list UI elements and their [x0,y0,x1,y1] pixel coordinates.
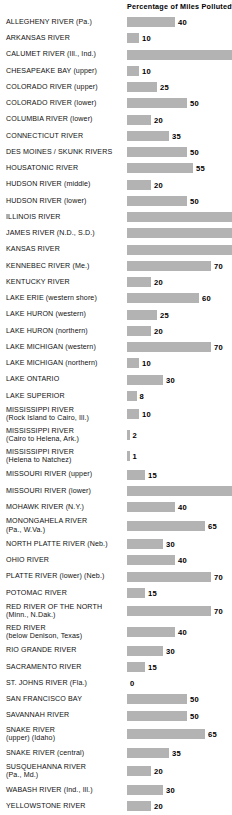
row-bar-zone [125,209,232,225]
chart-row: ILLINOIS RIVER [0,209,232,225]
row-label: MISSOURI RIVER (upper) [0,470,125,478]
row-bar-zone: 30 [125,643,232,659]
row-bar-zone: 15 [125,659,232,675]
bar [127,729,205,739]
bar-value-label: 20 [154,278,163,287]
bar-value-label: 10 [142,66,151,75]
row-bar-zone [125,483,232,499]
row-label: LAKE HURON (western) [0,310,125,318]
row-bar-zone: 20 [125,112,232,128]
bar-value-label: 20 [154,767,163,776]
bar-value-label: 70 [214,261,223,270]
bar [127,451,130,461]
row-bar-zone: 65 [125,724,232,745]
chart-row: HUDSON RIVER (middle)20 [0,177,232,193]
bar-value-label: 70 [214,607,223,616]
row-bar-zone: 40 [125,14,232,30]
chart-title-text: Percentage of Miles Polluted [127,2,232,11]
bar [127,82,157,92]
bar [127,646,163,656]
row-label: LAKE HURON (northern) [0,327,125,335]
bar [127,212,232,222]
bar-value-label: 70 [214,572,223,581]
bar-value-label: 15 [148,588,157,597]
row-label: LAKE MICHIGAN (northern) [0,359,125,367]
chart-row: POTOMAC RIVER15 [0,585,232,601]
row-label: DES MOINES / SKUNK RIVERS [0,148,125,156]
bar [127,748,169,758]
row-bar-zone: 25 [125,79,232,95]
row-bar-zone: 1 [125,446,232,467]
chart-title: Percentage of Miles Polluted2 [127,2,232,11]
row-label: CHESAPEAKE BAY (upper) [0,67,125,75]
row-bar-zone: 40 [125,622,232,643]
row-bar-zone: 50 [125,691,232,707]
bar [127,261,211,271]
bar-value-label: 25 [160,83,169,92]
bar [127,572,211,582]
row-label: COLUMBIA RIVER (lower) [0,115,125,123]
row-label: NORTH PLATTE RIVER (Neb.) [0,540,125,548]
chart-row: CHESAPEAKE BAY (upper)10 [0,63,232,79]
row-bar-zone: 2 [125,425,232,446]
bar [127,326,151,336]
bar [127,766,151,776]
row-bar-zone: 65 [125,515,232,536]
bar [127,358,139,368]
bar-value-label: 20 [154,115,163,124]
chart-row: LAKE MICHIGAN (northern)10 [0,355,232,371]
row-label: POTOMAC RIVER [0,589,125,597]
bar [127,486,232,496]
bar-value-label: 50 [190,695,199,704]
bar [127,521,205,531]
row-label: MONONGAHELA RIVER (Pa., W.Va.) [0,517,125,534]
bar-value-label: 20 [154,802,163,811]
row-label: KENTUCKY RIVER [0,278,125,286]
row-bar-zone: 50 [125,144,232,160]
bar-value-label: 50 [190,196,199,205]
bar [127,115,151,125]
row-label: COLORADO RIVER (upper) [0,83,125,91]
chart-row: LAKE ERIE (western shore)60 [0,290,232,306]
row-label: HUDSON RIVER (middle) [0,180,125,188]
chart-row: LAKE MICHIGAN (western)70 [0,339,232,355]
bar-value-label: 30 [166,375,175,384]
chart-row: MONONGAHELA RIVER (Pa., W.Va.)65 [0,515,232,536]
row-label: CONNECTICUT RIVER [0,132,125,140]
bar-value-label: 0 [130,679,134,688]
chart-row: KANSAS RIVER [0,242,232,258]
bar [127,245,232,255]
bar [127,539,163,549]
chart-row: SNAKE RIVER (upper) (Idaho)65 [0,724,232,745]
row-bar-zone: 30 [125,372,232,388]
bar-value-label: 10 [142,410,151,419]
bar-value-label: 40 [178,556,187,565]
row-label: LAKE ERIE (western shore) [0,294,125,302]
row-bar-zone: 70 [125,258,232,274]
row-bar-zone: 0 [125,675,232,691]
bar-value-label: 50 [190,148,199,157]
row-label: MISSOURI RIVER (lower) [0,487,125,495]
row-bar-zone: 40 [125,552,232,568]
bar [127,131,169,141]
row-bar-zone: 30 [125,536,232,552]
row-label: LAKE SUPERIOR [0,392,125,400]
row-bar-zone: 10 [125,355,232,371]
bar [127,342,211,352]
row-label: SAVANNAH RIVER [0,711,125,719]
row-bar-zone: 40 [125,499,232,515]
chart-row: OHIO RIVER40 [0,552,232,568]
row-label: HUDSON RIVER (lower) [0,197,125,205]
row-label: SUSQUEHANNA RIVER (Pa., Md.) [0,763,125,780]
row-label: SNAKE RIVER (upper) (Idaho) [0,726,125,743]
bar-value-label: 60 [202,294,211,303]
row-label: PLATTE RIVER (lower) (Neb.) [0,572,125,580]
bar [127,66,139,76]
bar [127,17,175,27]
chart-row: JAMES RIVER (N.D., S.D.) [0,225,232,241]
row-bar-zone: 60 [125,290,232,306]
bar [127,293,199,303]
chart-row: CALUMET RIVER (Ill., Ind.) [0,47,232,63]
bar-value-label: 50 [190,711,199,720]
bar-value-label: 20 [154,326,163,335]
